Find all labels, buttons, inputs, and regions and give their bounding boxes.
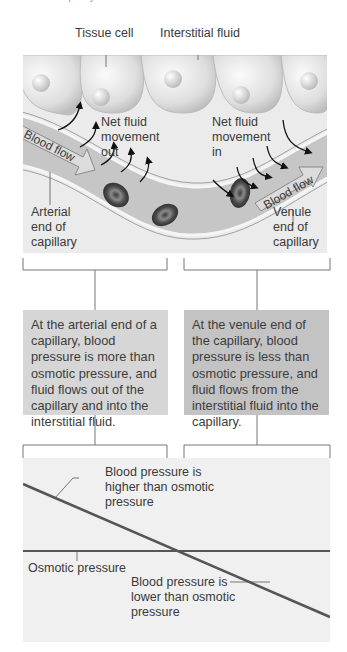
label-net-fluid-out: Net fluid movement out xyxy=(101,115,159,160)
label-interstitial-fluid: Interstitial fluid xyxy=(160,26,240,41)
arterial-explanation: At the arterial end of a capillary, bloo… xyxy=(23,310,168,415)
tissue-cells xyxy=(23,55,327,115)
label-bp-higher: Blood pressure is higher than osmotic pr… xyxy=(105,465,214,510)
label-tissue-cell: Tissue cell xyxy=(75,26,134,41)
label-net-fluid-in: Net fluid movement in xyxy=(212,115,270,160)
label-venule-end: Venule end of capillary xyxy=(273,205,319,250)
pressure-chart: Blood pressure is higher than osmotic pr… xyxy=(23,458,330,642)
label-bp-lower: Blood pressure is lower than osmotic pre… xyxy=(131,575,235,620)
venule-explanation: At the venule end of the capillary, bloo… xyxy=(184,310,329,415)
label-osmotic-pressure: Osmotic pressure xyxy=(28,561,126,576)
figure-caption-partial: capillary. Hover for more... xyxy=(58,0,175,2)
label-arterial-end: Arterial end of capillary xyxy=(31,205,77,250)
capillary-illustration: Net fluid movement out Net fluid movemen… xyxy=(23,55,327,253)
